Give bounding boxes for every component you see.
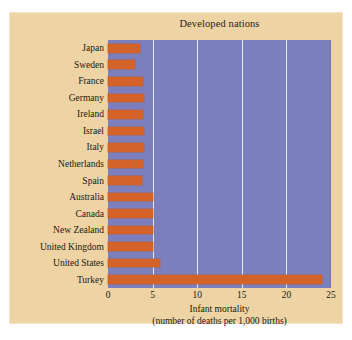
category-label: United States — [14, 258, 104, 268]
bar-row — [108, 205, 330, 222]
x-axis-tick-labels: 0510152025 — [108, 290, 331, 304]
bar — [108, 60, 135, 69]
bar-row — [108, 57, 330, 74]
bar — [108, 242, 153, 251]
x-axis-title-line2: (number of deaths per 1,000 births) — [108, 316, 331, 328]
category-axis-labels: JapanSwedenFranceGermanyIrelandIsraelIta… — [14, 40, 104, 288]
category-label: United Kingdom — [14, 242, 104, 252]
bar — [108, 275, 322, 284]
bar — [108, 110, 143, 119]
bar — [108, 209, 153, 218]
category-label: Ireland — [14, 109, 104, 119]
category-label: Germany — [14, 93, 104, 103]
category-label: Israel — [14, 126, 104, 136]
bar — [108, 176, 142, 185]
bar — [108, 44, 140, 53]
bar-row — [108, 222, 330, 239]
bar-row — [108, 123, 330, 140]
x-axis-title: Infant mortality (number of deaths per 1… — [108, 304, 331, 327]
bar-row — [108, 238, 330, 255]
category-label: Australia — [14, 192, 104, 202]
x-tick-label: 10 — [192, 290, 202, 300]
x-tick-label: 15 — [237, 290, 247, 300]
chart-figure: Developed nations JapanSwedenFranceGerma… — [0, 0, 352, 340]
x-tick-label: 20 — [282, 290, 292, 300]
category-label: Spain — [14, 176, 104, 186]
category-label: Japan — [14, 43, 104, 53]
chart-title: Developed nations — [108, 18, 331, 29]
category-label: New Zealand — [14, 225, 104, 235]
category-label: France — [14, 76, 104, 86]
category-label: Italy — [14, 142, 104, 152]
bar-row — [108, 139, 330, 156]
x-axis-title-line1: Infant mortality — [108, 304, 331, 316]
bar-row — [108, 156, 330, 173]
bar — [108, 259, 160, 268]
bar — [108, 160, 143, 169]
bar-row — [108, 189, 330, 206]
category-label: Canada — [14, 209, 104, 219]
x-tick-label: 5 — [150, 290, 155, 300]
category-label: Sweden — [14, 60, 104, 70]
bar — [108, 77, 143, 86]
plot-area — [108, 40, 331, 288]
bar-row — [108, 271, 330, 288]
category-label: Turkey — [14, 275, 104, 285]
x-tick-label: 25 — [326, 290, 336, 300]
bar — [108, 94, 144, 103]
bar — [108, 143, 144, 152]
bar-row — [108, 172, 330, 189]
bar-row — [108, 73, 330, 90]
bar-row — [108, 90, 330, 107]
x-tick-label: 0 — [106, 290, 111, 300]
bar — [108, 193, 153, 202]
bar-row — [108, 255, 330, 272]
bar-row — [108, 106, 330, 123]
bar-series — [108, 40, 330, 288]
bar — [108, 226, 153, 235]
bar-row — [108, 40, 330, 57]
category-label: Netherlands — [14, 159, 104, 169]
bar — [108, 127, 144, 136]
